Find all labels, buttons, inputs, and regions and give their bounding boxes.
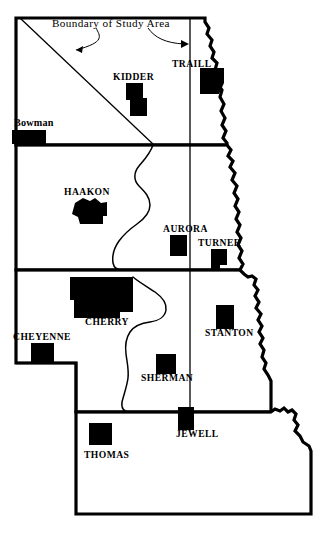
county-label-sherman: SHERMAN	[141, 372, 193, 383]
county-patch-thomas	[89, 423, 112, 445]
county-patch-cheyenne	[31, 343, 54, 363]
county-label-turner: TURNER	[198, 237, 242, 248]
study-area-map: Boundary of Study Area Bowman KIDDER TRA…	[0, 0, 330, 551]
state-outline-south-dakota	[16, 145, 243, 270]
county-label-thomas: THOMAS	[84, 449, 129, 460]
county-patch-bowman	[12, 130, 46, 144]
county-label-cheyenne: CHEYENNE	[13, 331, 71, 342]
study-area-caption: Boundary of Study Area	[52, 17, 170, 29]
county-label-haakon: HAAKON	[64, 186, 110, 197]
county-patch-stanton	[216, 305, 234, 329]
county-patch-cherry	[70, 277, 133, 318]
county-patch-traill	[200, 68, 224, 94]
border-colorado-notch	[16, 363, 76, 412]
county-label-aurora: AURORA	[163, 223, 208, 234]
county-label-bowman: Bowman	[14, 117, 54, 128]
county-patch-jewell	[178, 407, 194, 430]
county-label-traill: TRAILL	[172, 58, 212, 69]
county-patch-aurora	[170, 235, 187, 256]
map-canvas: Boundary of Study Area Bowman KIDDER TRA…	[0, 0, 330, 551]
county-label-cherry: CHERRY	[85, 316, 129, 327]
county-patch-sherman	[156, 354, 176, 374]
county-label-stanton: STANTON	[205, 327, 254, 338]
county-label-jewell: JEWELL	[176, 428, 219, 439]
county-label-kidder: KIDDER	[113, 71, 155, 82]
